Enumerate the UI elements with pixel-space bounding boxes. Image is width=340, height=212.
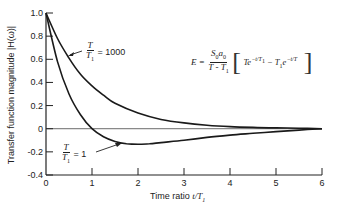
formula-den: T - T1 <box>207 63 229 76</box>
x-axis-title: Time ratio t/T1 <box>150 191 205 203</box>
curve1-den-sub: 1 <box>91 56 94 62</box>
y-tick-label: 1.0 <box>30 8 43 18</box>
x-axis-title-sub: 1 <box>202 197 205 203</box>
x-tick-label: 0 <box>43 178 48 188</box>
formula-lhs: E = <box>191 57 205 67</box>
x-tick-label: 5 <box>273 178 278 188</box>
formula-term1-sup: −t/T <box>251 56 262 62</box>
formula-num-sub2: 0 <box>223 54 226 60</box>
x-axis-title-text: Time ratio <box>150 191 192 201</box>
formula-minus: − T <box>265 57 280 67</box>
x-tick-label: 4 <box>227 178 232 188</box>
y-tick-label: -0.4 <box>27 170 43 180</box>
curve2-den: T1 <box>61 153 71 166</box>
arrowhead-curve1 <box>68 52 74 56</box>
y-tick-label: 0.2 <box>30 101 43 111</box>
curve2-label: T T1 = 1 <box>61 143 86 166</box>
left-bracket: [ <box>232 47 241 76</box>
x-axis-title-var: t/T <box>192 191 202 201</box>
formula-term1: Te <box>243 57 251 67</box>
right-bracket: ] <box>304 47 313 76</box>
y-tick-label: 0.6 <box>30 54 43 64</box>
curve-t-ratio-1 <box>46 13 322 144</box>
formula-den-sub: 1 <box>226 68 229 74</box>
formula-term2-sup: −t/T <box>286 56 297 62</box>
curve1-den: T1 <box>85 51 95 64</box>
x-tick-label: 6 <box>319 178 324 188</box>
curve2-fraction: T T1 <box>61 143 71 166</box>
chart: -0.4-0.200.20.40.60.81.00123456 Transfer… <box>0 0 340 212</box>
y-tick-label: 0 <box>38 124 43 134</box>
arrow-curve2 <box>96 144 119 152</box>
y-tick-label: -0.2 <box>27 147 43 157</box>
y-axis-title: Transfer function magnitude |H(ω)| <box>6 26 16 164</box>
curve1-label: T T1 = 1000 <box>85 41 125 64</box>
formula-den-text: T - T <box>208 62 225 72</box>
curve1-eq: = 1000 <box>98 47 126 57</box>
formula-fraction: S0a0 T - T1 <box>207 49 229 76</box>
series-lines <box>46 13 322 144</box>
annotation-arrows <box>68 51 122 152</box>
x-tick-label: 3 <box>181 178 186 188</box>
x-tick-label: 1 <box>89 178 94 188</box>
formula: E = S0a0 T - T1 [ Te−t/T1 − T1e−t/T ] <box>191 49 312 76</box>
y-tick-label: 0.8 <box>30 31 43 41</box>
curve2-eq: = 1 <box>74 149 87 159</box>
y-tick-label: 0.4 <box>30 77 43 87</box>
formula-num: S0a0 <box>210 49 227 63</box>
curve1-fraction: T T1 <box>85 41 95 64</box>
x-tick-label: 2 <box>135 178 140 188</box>
arrowhead-curve2 <box>115 143 122 147</box>
curve2-den-sub: 1 <box>67 158 70 164</box>
formula-bracket-content: Te−t/T1 − T1e−t/T <box>243 57 297 67</box>
